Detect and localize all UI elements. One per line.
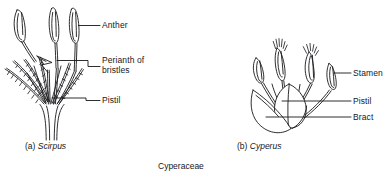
cyperaceae-figure: Anther Perianth of bristles Pistil Stame…	[0, 0, 385, 178]
panel-caption-b: (b) Cyperus	[237, 141, 281, 151]
label-bract: Bract	[353, 112, 373, 122]
label-perianth-line1: Perianth of	[102, 55, 144, 65]
scirpus-anther-middle	[49, 8, 59, 69]
scirpus-anther-right	[69, 8, 79, 71]
panel-b-species: Cyperus	[250, 141, 282, 151]
label-pistil-cyperus: Pistil	[353, 96, 372, 106]
scirpus-anther-left	[14, 10, 36, 62]
label-anther: Anther	[102, 20, 128, 30]
plate-caption: Cyperaceae	[158, 161, 204, 171]
panel-a-marker: (a)	[25, 141, 35, 151]
label-perianth-line2: bristles	[102, 65, 130, 75]
label-pistil-scirpus: Pistil	[102, 95, 121, 105]
panel-b-marker: (b)	[237, 141, 247, 151]
panel-a-species: Scirpus	[38, 141, 66, 151]
leader-perianth	[57, 61, 100, 67]
label-stamen: Stamen	[353, 68, 383, 78]
botanical-line-art	[0, 0, 385, 178]
scirpus-pedicel	[40, 105, 64, 141]
panel-caption-a: (a) Scirpus	[25, 141, 66, 151]
label-perianth-of-bristles: Perianth of bristles	[102, 55, 166, 75]
